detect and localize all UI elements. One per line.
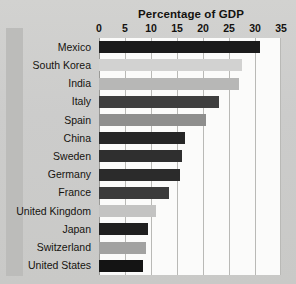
y-tick-label: Sweden — [0, 150, 95, 162]
bar-row — [99, 166, 281, 184]
bar-row — [99, 74, 281, 92]
y-axis-category-labels: MexicoSouth KoreaIndiaItalySpainChinaSwe… — [0, 38, 95, 275]
bar-row — [99, 129, 281, 147]
bar-mexico — [99, 41, 260, 53]
chart-title: Percentage of GDP — [98, 8, 284, 20]
bar-row — [99, 184, 281, 202]
y-tick-label: China — [0, 132, 95, 144]
x-axis-tick-labels: 05101520253035 — [0, 22, 296, 36]
y-tick-label: Italy — [0, 95, 95, 107]
y-tick-label: United Kingdom — [0, 205, 95, 217]
bar-united-kingdom — [99, 205, 156, 217]
y-tick-label: Germany — [0, 168, 95, 180]
x-tick-label: 25 — [216, 22, 242, 34]
x-tick-label: 35 — [268, 22, 294, 34]
bar-china — [99, 132, 185, 144]
y-tick-label: Mexico — [0, 41, 95, 53]
bar-france — [99, 187, 169, 199]
bar-spain — [99, 114, 206, 126]
y-tick-label: United States — [0, 259, 95, 271]
bar-chart-figure: Percentage of GDP 05101520253035 MexicoS… — [0, 0, 296, 284]
bar-row — [99, 257, 281, 275]
bar-row — [99, 147, 281, 165]
bar-switzerland — [99, 242, 146, 254]
x-tick-label: 5 — [112, 22, 138, 34]
y-tick-label: India — [0, 77, 95, 89]
x-tick-label: 15 — [164, 22, 190, 34]
bar-sweden — [99, 150, 182, 162]
bar-row — [99, 111, 281, 129]
bar-row — [99, 239, 281, 257]
y-tick-label: Spain — [0, 114, 95, 126]
y-tick-label: France — [0, 186, 95, 198]
bar-italy — [99, 96, 219, 108]
x-tick-label: 0 — [86, 22, 112, 34]
bar-germany — [99, 169, 180, 181]
bar-row — [99, 202, 281, 220]
bar-row — [99, 38, 281, 56]
x-tick-label: 10 — [138, 22, 164, 34]
bar-united-states — [99, 260, 143, 272]
bar-series — [99, 38, 281, 275]
bar-japan — [99, 223, 148, 235]
bar-row — [99, 56, 281, 74]
y-tick-label: Japan — [0, 223, 95, 235]
x-tick-label: 30 — [242, 22, 268, 34]
bar-row — [99, 220, 281, 238]
plot-area — [99, 38, 281, 275]
bar-south-korea — [99, 59, 242, 71]
bar-india — [99, 78, 239, 90]
y-tick-label: South Korea — [0, 59, 95, 71]
y-tick-label: Switzerland — [0, 241, 95, 253]
x-tick-label: 20 — [190, 22, 216, 34]
bar-row — [99, 93, 281, 111]
